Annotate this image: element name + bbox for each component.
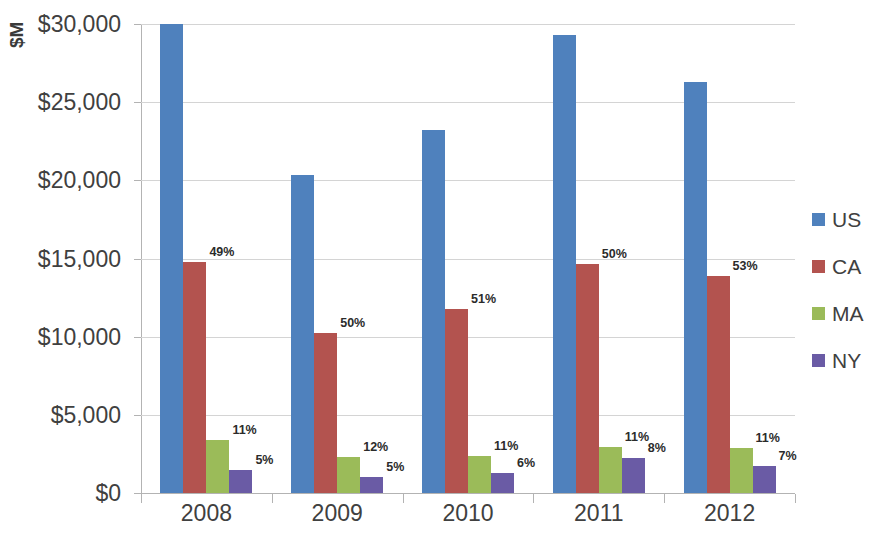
bar-us-2008[interactable] (160, 24, 183, 493)
y-axis-tick-label: $25,000 (0, 89, 131, 116)
bar-data-label: 12% (363, 440, 388, 454)
x-axis-tick-label-2010: 2010 (442, 500, 493, 527)
bar-data-label: 11% (756, 431, 780, 445)
bar-us-2009[interactable] (291, 175, 314, 493)
x-axis-tick (795, 494, 796, 503)
x-axis-tick (141, 494, 142, 503)
bar-data-label: 51% (471, 292, 496, 306)
bar-ny-2012[interactable] (753, 466, 776, 493)
bar-ca-2011[interactable] (576, 264, 599, 493)
y-axis-tick-label: $0 (0, 480, 131, 507)
legend-item-ca[interactable]: CA (812, 243, 870, 290)
y-axis-tick-label: $30,000 (0, 11, 131, 38)
plot-area: 49%11%5%50%12%5%51%11%6%50%11%8%53%11%7% (141, 24, 795, 493)
x-axis-tick-label-2009: 2009 (312, 500, 363, 527)
legend-item-ny[interactable]: NY (812, 337, 870, 384)
legend-label: MA (832, 303, 864, 324)
bar-us-2012[interactable] (684, 82, 707, 493)
bar-ca-2009[interactable] (314, 333, 337, 493)
bar-data-label: 11% (494, 439, 518, 453)
x-axis-tick (533, 494, 534, 503)
y-axis-tick-label: $10,000 (0, 323, 131, 350)
bar-chart: $M $0$5,000$10,000$15,000$20,000$25,000$… (0, 0, 873, 538)
bar-ma-2012[interactable] (730, 448, 753, 493)
legend-label: CA (832, 256, 861, 277)
bar-ny-2010[interactable] (491, 473, 514, 493)
legend-label: US (832, 209, 861, 230)
bar-data-label: 50% (340, 316, 365, 330)
x-axis-tick (272, 494, 273, 503)
x-axis-line (141, 493, 795, 494)
y-axis-tick (134, 24, 141, 25)
legend-swatch-ca (812, 260, 825, 273)
bar-ny-2011[interactable] (622, 458, 645, 493)
x-axis-tick-label-2011: 2011 (574, 500, 623, 527)
y-axis-tick-labels: $0$5,000$10,000$15,000$20,000$25,000$30,… (0, 0, 131, 538)
bar-data-label: 5% (386, 460, 404, 474)
y-axis-tick (134, 337, 141, 338)
legend-label: NY (832, 350, 861, 371)
y-axis-tick (134, 102, 141, 103)
x-axis-tick-label-2008: 2008 (181, 500, 232, 527)
bar-data-label: 8% (648, 441, 666, 455)
legend-swatch-us (812, 213, 825, 226)
bar-data-label: 49% (209, 245, 234, 259)
x-axis-tick (403, 494, 404, 503)
legend-item-us[interactable]: US (812, 196, 870, 243)
bar-data-label: 6% (517, 456, 535, 470)
bar-data-label: 53% (733, 259, 758, 273)
legend-swatch-ma (812, 307, 825, 320)
legend-item-ma[interactable]: MA (812, 290, 870, 337)
legend-swatch-ny (812, 354, 825, 367)
bar-ca-2010[interactable] (445, 309, 468, 493)
bar-ca-2012[interactable] (707, 276, 730, 493)
bar-data-label: 50% (602, 247, 627, 261)
y-axis-tick (134, 180, 141, 181)
bar-ma-2008[interactable] (206, 440, 229, 493)
bar-us-2011[interactable] (553, 35, 576, 493)
bar-data-label: 11% (232, 423, 256, 437)
y-axis-tick (134, 415, 141, 416)
y-axis-tick (134, 493, 141, 494)
x-axis-tick-label-2012: 2012 (704, 500, 755, 527)
bar-data-label: 11% (625, 430, 649, 444)
bar-data-label: 5% (255, 453, 273, 467)
bar-ma-2010[interactable] (468, 456, 491, 493)
bar-data-label: 7% (779, 449, 797, 463)
gridline (141, 24, 795, 25)
bar-ca-2008[interactable] (183, 262, 206, 493)
legend: USCAMANY (812, 196, 870, 384)
y-axis-tick (134, 259, 141, 260)
bar-ma-2009[interactable] (337, 457, 360, 493)
bar-ny-2008[interactable] (229, 470, 252, 493)
y-axis-tick-label: $15,000 (0, 245, 131, 272)
y-axis-tick-label: $20,000 (0, 167, 131, 194)
bar-ny-2009[interactable] (360, 477, 383, 493)
y-axis-tick-label: $5,000 (0, 401, 131, 428)
bar-ma-2011[interactable] (599, 447, 622, 493)
bar-us-2010[interactable] (422, 130, 445, 493)
x-axis-tick (664, 494, 665, 503)
